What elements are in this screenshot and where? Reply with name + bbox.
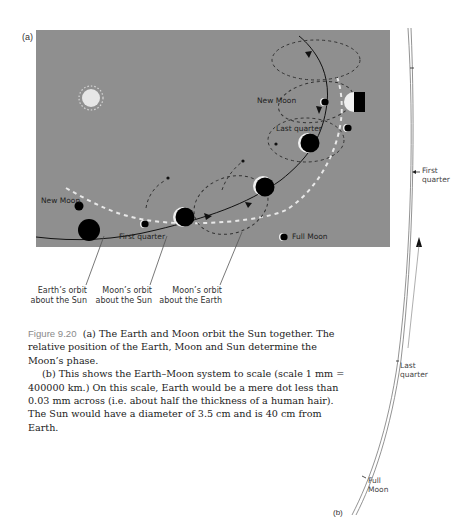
panel-b-diagram <box>0 0 474 530</box>
label-b-first-quarter: First quarter <box>422 166 450 184</box>
figure-caption: Figure 9.20 (a) The Earth and Moon orbit… <box>28 327 348 434</box>
label-text: Moon <box>368 485 388 494</box>
caption-para-b: (b) This shows the Earth–Moon system to … <box>28 367 348 434</box>
label-b-full-moon: Full Moon <box>368 476 388 494</box>
label-text: First <box>422 166 450 175</box>
label-text: Last <box>400 361 428 370</box>
figure-number: Figure 9.20 <box>28 328 77 339</box>
label-text: quarter <box>422 175 450 184</box>
label-b-last-quarter: Last quarter <box>400 361 428 379</box>
panel-b-label: (b) <box>333 508 343 517</box>
label-text: quarter <box>400 370 428 379</box>
label-text: Full <box>368 476 388 485</box>
